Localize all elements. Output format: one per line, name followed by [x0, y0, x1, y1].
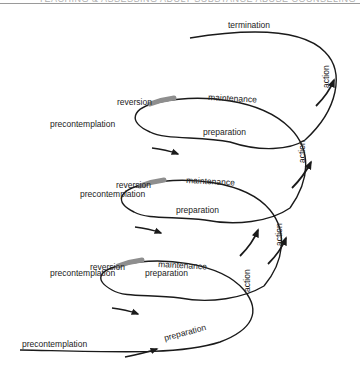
label-preparation-2: preparation	[176, 205, 219, 215]
preparation-arrow-bottom	[125, 349, 157, 357]
preparation-arrow-3	[112, 308, 138, 314]
label-preparation-bottom: preparation	[163, 322, 207, 343]
label-precontemplation-2: precontemplation	[80, 189, 145, 199]
preparation-arrow-2	[135, 227, 161, 233]
label-precontemplation-3: precontemplation	[50, 268, 115, 278]
reversion-band-1	[150, 98, 174, 104]
label-action-2: action	[274, 223, 284, 246]
label-precontemplation-bottom: precontemplation	[22, 339, 87, 349]
top-termination-arc	[190, 32, 336, 140]
action-arrow-3	[240, 230, 258, 256]
label-preparation-3: preparation	[145, 268, 188, 278]
label-preparation-1: preparation	[203, 127, 246, 137]
stages-of-change-spiral: termination action reversion maintenance…	[0, 0, 360, 375]
loop-1	[135, 98, 311, 208]
label-termination: termination	[228, 20, 270, 30]
label-maintenance-1: maintenance	[208, 92, 257, 105]
preparation-arrow-1	[152, 148, 178, 154]
label-action-top: action	[321, 65, 331, 88]
label-reversion-1: reversion	[117, 97, 152, 107]
loop-3	[20, 230, 264, 352]
label-action-3: action	[242, 269, 252, 292]
action-arrow-1	[292, 162, 311, 188]
label-action-1: action	[297, 140, 307, 163]
label-maintenance-2: maintenance	[186, 175, 235, 188]
label-precontemplation-1: precontemplation	[50, 119, 115, 129]
